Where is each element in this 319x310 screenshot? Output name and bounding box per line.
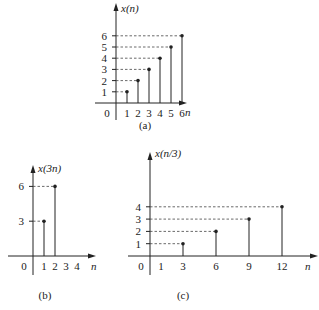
y-axis-arrow-icon [31,165,36,173]
x-tick-label: 0 [138,260,144,272]
stem-marker [280,205,284,209]
x-tick-label: 0 [104,107,110,119]
x-tick-label: 6 [213,260,219,272]
y-axis-label: x(n/3) [154,147,182,160]
x-tick-label: 12 [277,260,288,272]
x-tick-label: 1 [158,260,164,272]
x-tick-label: 4 [74,260,80,272]
x-tick-label: 2 [52,260,58,272]
y-tick-label: 6 [102,30,108,42]
y-tick-label: 1 [102,86,108,98]
figure: x(n)n0123456123456(a)x(3n)n0123436(b)x(n… [0,0,319,310]
stem-marker [136,79,140,83]
x-axis-arrow-icon [88,254,96,259]
stem-marker [180,34,184,38]
stem-marker [125,90,129,94]
y-axis-arrow-icon [148,152,153,160]
y-tick-label: 1 [136,238,142,250]
x-tick-label: 3 [146,107,152,119]
figure-caption: (c) [177,289,190,302]
y-tick-label: 4 [102,52,108,64]
stem-marker [214,230,218,234]
y-tick-label: 2 [102,75,108,87]
stem-marker [53,185,57,189]
stem-marker [181,242,185,246]
x-tick-label: 2 [135,107,141,119]
x-tick-label: 3 [63,260,69,272]
stem-marker [147,68,151,72]
x-tick-label: 0 [21,260,27,272]
y-tick-label: 4 [136,201,142,213]
y-tick-label: 3 [19,215,25,227]
figure-caption: (a) [139,119,152,132]
stem-marker [42,219,46,223]
x-axis-label: n [91,260,97,272]
x-tick-label: 9 [246,260,252,272]
x-tick-label: 5 [168,107,174,119]
y-tick-label: 5 [102,41,108,53]
x-axis-label: n [185,106,191,118]
y-axis-label: x(3n) [37,162,62,175]
x-tick-label: 1 [41,260,47,272]
stem-marker [247,217,251,221]
y-axis-arrow-icon [114,3,119,11]
stem-marker [169,45,173,49]
x-tick-label: 3 [180,260,186,272]
x-tick-label: 4 [157,107,163,119]
x-tick-label: 1 [124,107,130,119]
y-tick-label: 6 [19,180,25,192]
x-tick-label: 6 [179,107,185,119]
figure-caption: (b) [39,289,52,302]
x-axis-arrow-icon [310,254,318,259]
y-tick-label: 2 [136,225,142,237]
y-tick-label: 3 [136,213,142,225]
x-axis-label: n [305,260,311,272]
stem-marker [158,56,162,60]
y-tick-label: 3 [102,63,108,75]
x-axis-arrow-icon [179,101,187,106]
y-axis-label: x(n) [120,2,139,15]
